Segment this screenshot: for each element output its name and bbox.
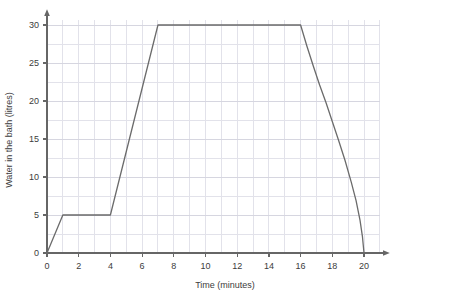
y-axis-tick-label: 25 [29, 58, 39, 68]
axis-lines [44, 9, 390, 256]
y-axis-tick-label: 20 [29, 96, 39, 106]
y-axis-tick-label: 15 [29, 134, 39, 144]
x-axis-tick-label: 12 [232, 261, 242, 271]
x-axis-title: Time (minutes) [195, 280, 255, 290]
x-axis-tick-label: 6 [140, 261, 145, 271]
axis-ticks [43, 25, 364, 257]
x-axis-tick-label: 20 [359, 261, 369, 271]
y-axis-tick-label: 5 [34, 210, 39, 220]
y-axis-tick-label: 0 [34, 248, 39, 258]
x-axis-arrow-icon [383, 250, 390, 256]
x-axis-tick-label: 2 [76, 261, 81, 271]
line-chart: 02468101214161820051015202530 Time (minu… [0, 0, 451, 296]
chart-container: 02468101214161820051015202530 Time (minu… [0, 0, 451, 296]
y-axis-arrow-icon [44, 9, 50, 16]
x-axis-tick-label: 16 [296, 261, 306, 271]
y-axis-tick-label: 30 [29, 20, 39, 30]
x-axis-tick-label: 14 [264, 261, 274, 271]
y-axis-tick-label: 10 [29, 172, 39, 182]
minor-gridlines [47, 20, 380, 253]
x-axis-tick-label: 8 [171, 261, 176, 271]
x-axis-tick-label: 18 [327, 261, 337, 271]
axis-tick-labels: 02468101214161820051015202530 [29, 20, 369, 271]
x-axis-tick-label: 10 [200, 261, 210, 271]
x-axis-tick-label: 0 [44, 261, 49, 271]
y-axis-title: Water in the bath (litres) [4, 92, 14, 188]
x-axis-tick-label: 4 [108, 261, 113, 271]
